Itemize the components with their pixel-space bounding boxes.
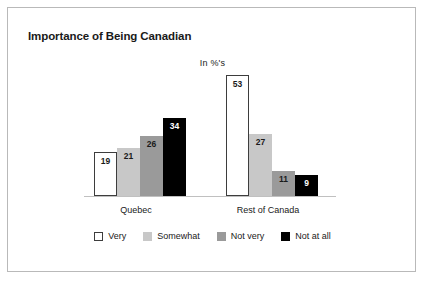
bar-group-quebec: 19212634 bbox=[94, 70, 186, 196]
legend-swatch-icon bbox=[94, 232, 103, 241]
bar-value-label: 11 bbox=[272, 175, 295, 184]
bar-0-0: 19 bbox=[94, 152, 117, 196]
x-axis-baseline bbox=[84, 196, 336, 197]
bar-value-label: 53 bbox=[227, 80, 248, 89]
legend-item-2[interactable]: Not very bbox=[217, 231, 265, 241]
bar-0-1: 21 bbox=[117, 148, 140, 196]
bar-value-label: 9 bbox=[295, 179, 318, 188]
bar-value-label: 27 bbox=[249, 138, 272, 147]
legend-item-label: Somewhat bbox=[157, 231, 200, 241]
bar-group-rest-of-canada: 5327119 bbox=[226, 70, 318, 196]
bar-value-label: 34 bbox=[163, 122, 186, 131]
plot-area: 19212634 5327119 bbox=[84, 70, 336, 197]
legend-swatch-icon bbox=[217, 232, 226, 241]
legend-swatch-icon bbox=[143, 232, 152, 241]
legend-item-1[interactable]: Somewhat bbox=[143, 231, 200, 241]
bar-0-3: 34 bbox=[163, 118, 186, 196]
legend-item-label: Not at all bbox=[295, 231, 331, 241]
page-title: Importance of Being Canadian bbox=[28, 30, 191, 42]
category-label-rest-of-canada: Rest of Canada bbox=[216, 205, 320, 215]
legend-item-0[interactable]: Very bbox=[94, 231, 126, 241]
chart-subtitle: In %'s bbox=[0, 58, 425, 68]
bar-1-1: 27 bbox=[249, 134, 272, 196]
legend-swatch-icon bbox=[281, 232, 290, 241]
bar-0-2: 26 bbox=[140, 136, 163, 196]
bar-1-3: 9 bbox=[295, 175, 318, 196]
bar-1-0: 53 bbox=[226, 75, 249, 196]
chart-legend: VerySomewhatNot veryNot at all bbox=[0, 231, 425, 241]
bar-value-label: 21 bbox=[117, 152, 140, 161]
bar-value-label: 26 bbox=[140, 140, 163, 149]
bar-value-label: 19 bbox=[95, 157, 116, 166]
bar-1-2: 11 bbox=[272, 171, 295, 196]
legend-item-label: Very bbox=[108, 231, 126, 241]
legend-item-label: Not very bbox=[231, 231, 265, 241]
legend-item-3[interactable]: Not at all bbox=[281, 231, 331, 241]
category-label-quebec: Quebec bbox=[84, 205, 188, 215]
